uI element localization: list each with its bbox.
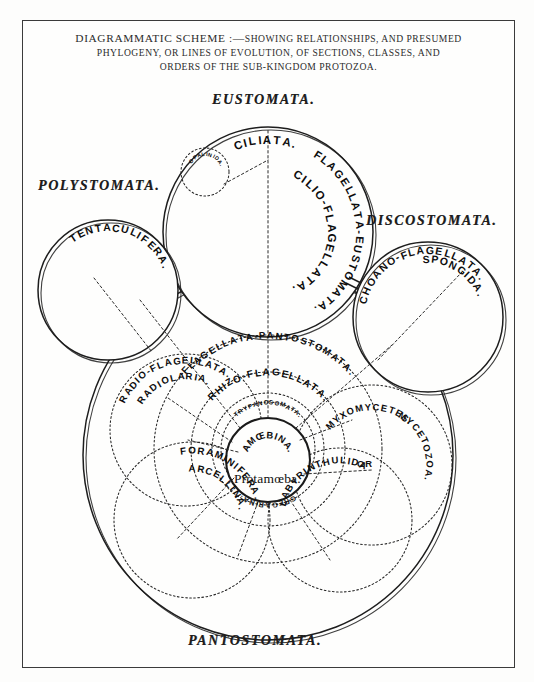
label-or: OR xyxy=(357,458,373,469)
section-label-discostomata: DISCOSTOMATA. xyxy=(366,213,497,229)
label-protamoeba: Protamœba. xyxy=(234,471,301,487)
engraving-page: DIAGRAMMATIC SCHEME :—SHOWING RELATIONSH… xyxy=(0,0,534,682)
section-label-pantostomata: PANTOSTOMATA. xyxy=(188,633,322,649)
section-label-eustomata: EUSTOMATA. xyxy=(212,92,315,108)
section-label-polystomata: POLYSTOMATA. xyxy=(38,178,160,194)
